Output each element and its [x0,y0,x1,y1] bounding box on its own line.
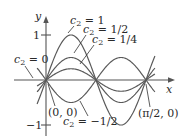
y-axis-arrow-icon [43,16,48,23]
x-axis-label: x [166,83,173,96]
solution-curves-plot: y x 1 −1 c2 = 1 c2 = 1/2 c2 = 1/4 c2 = 0… [0,0,181,138]
x-axis-arrow-icon [168,77,175,82]
pointer-c2-zero [25,66,33,78]
y-tick-label-neg: −1 [26,119,42,132]
y-axis-label: y [34,10,42,23]
y-tick-label-pos: 1 [33,29,40,42]
pointer-c2-1 [68,26,74,33]
label-c2-zero: c2 = 0 [14,53,48,67]
pointer-c2-neg-half [80,101,88,116]
pointer-c2-quarter [80,45,94,64]
end-point-label: (π/2, 0) [138,107,179,120]
origin-point-label: (0, 0) [48,106,78,119]
pointer-end [146,84,150,107]
